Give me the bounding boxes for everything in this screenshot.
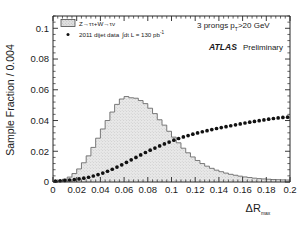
data-point [196,131,200,135]
data-point [210,128,214,132]
data-point [177,137,181,141]
annot-prongs-post: >20 GeV [238,21,270,30]
x-tick-label: 0.08 [139,184,158,195]
x-tick-label: 0.2 [283,184,296,195]
legend-marker-data [67,33,70,36]
legend-label-mc: Z→ττ+W→τν [79,20,115,27]
data-series-layer [53,97,290,183]
data-point [281,116,285,120]
data-point [96,173,100,177]
x-tick-label: 0.04 [91,184,110,195]
x-tick-label: 0 [50,184,55,195]
atlas-delta-r-chart: 00.020.040.060.080.10.120.140.160.180.20… [0,0,303,226]
y-tick-label: 0.06 [31,84,50,95]
data-point [139,153,143,157]
y-tick-label: 0.1 [36,23,49,34]
y-tick-label: 0.02 [31,146,50,157]
data-point [276,116,280,120]
chart-figure: 00.020.040.060.080.10.120.140.160.180.20… [0,0,303,226]
data-point [262,118,266,122]
data-point [286,115,290,119]
x-tick-label: 0.18 [257,184,276,195]
data-point [129,158,133,162]
x-tick-label: 0.14 [210,184,229,195]
legend: Z→ττ+W→τν 2011 dijet data∫dt L = 130 pb-… [61,20,164,39]
data-point [120,163,124,167]
legend-label-data-prefix: 2011 dijet data [79,31,120,38]
data-point [101,171,105,175]
y-tick-label: 0.04 [31,115,50,126]
x-axis-title: ΔRmax [246,202,271,216]
annotation-atlas: ATLAS Preliminary [208,42,283,52]
data-point [253,120,257,124]
data-point [224,125,228,129]
x-tick-label: 0.16 [233,184,252,195]
atlas-status-text: Preliminary [243,43,283,52]
data-point [238,122,242,126]
data-point [148,148,152,152]
data-point [215,127,219,131]
x-tick-label: 0.02 [67,184,86,195]
data-point [115,165,119,169]
data-point [110,167,114,171]
svg-text:ΔRmax: ΔRmax [246,202,271,216]
data-point [182,135,186,139]
data-point [87,175,91,179]
data-point [134,156,138,160]
data-point [267,117,271,121]
data-point [158,144,162,148]
svg-text:3 prongs pT>20 GeV: 3 prongs pT>20 GeV [197,21,270,32]
data-point [257,119,261,123]
data-point [72,178,76,182]
data-point [205,129,209,133]
y-tick-label: 0.08 [31,53,50,64]
annotation-prongs: 3 prongs pT>20 GeV [197,21,270,32]
data-point [200,130,204,134]
x-tick-label: 0.1 [165,184,178,195]
data-point [248,120,252,124]
data-point [153,146,157,150]
legend-label-data-exponent: -1 [160,30,165,35]
x-title-r: R [253,202,261,214]
x-tick-label: 0.12 [186,184,205,195]
data-point [234,123,238,127]
data-point [186,134,190,138]
y-tick-label: 0 [44,176,49,187]
mc-histogram-fill [53,97,290,182]
legend-swatch-mc [61,20,75,27]
data-point [229,124,233,128]
data-point [243,121,247,125]
data-point [125,160,129,164]
data-point [167,140,171,144]
legend-label-data: 2011 dijet data∫dt L = 130 pb-1 [79,30,164,38]
data-point [219,126,223,130]
annot-prongs-pre: 3 prongs p [197,21,235,30]
legend-label-data-integral: ∫dt L = 130 pb [121,31,160,39]
data-point [163,142,167,146]
data-point [144,151,148,155]
data-point [68,178,72,182]
x-title-sub: max [261,210,271,216]
data-point [82,176,86,180]
y-axis-title: Sample Fraction / 0.004 [4,44,16,156]
data-point [91,174,95,178]
data-point [106,169,110,173]
data-point [77,177,81,181]
data-point [272,117,276,121]
atlas-logo-text: ATLAS [208,42,237,52]
data-point [172,138,176,142]
x-tick-label: 0.06 [115,184,134,195]
data-point [191,132,195,136]
